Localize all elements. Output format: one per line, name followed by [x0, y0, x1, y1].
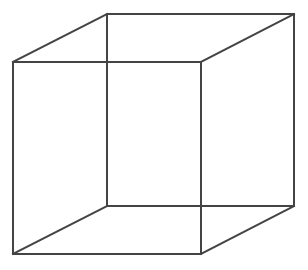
cube-edge-front-top-left-to-back-top-left: [13, 14, 107, 62]
cube-edge-front-top-right-to-back-top-right: [201, 14, 294, 62]
cube-edge-front-bottom-right-to-back-bottom-right: [201, 206, 294, 254]
cube-diagram: [0, 0, 308, 270]
necker-cube-drawing: [0, 0, 308, 270]
cube-edge-front-bottom-left-to-back-bottom-left: [13, 206, 107, 254]
